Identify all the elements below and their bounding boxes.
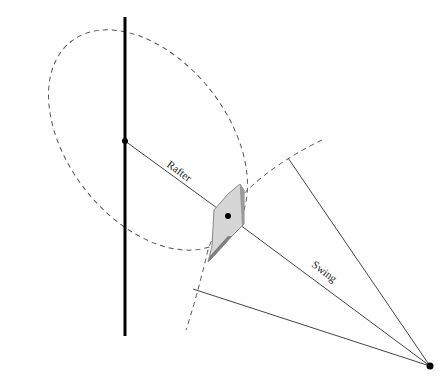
swing-line: [228, 216, 430, 366]
rafter-rotation-ellipse: [8, 0, 288, 288]
plate-pivot-dot: [225, 213, 231, 219]
pole-pivot-dot: [122, 138, 128, 144]
swing-end-dot: [427, 363, 434, 370]
swing-boundary-bottom: [193, 289, 430, 366]
rafter-label: Rafter: [165, 158, 195, 184]
rafter-swing-diagram: Rafter Swing: [0, 0, 445, 382]
plate-shape: [208, 184, 244, 262]
rafter-line: [125, 141, 228, 216]
swing-label: Swing: [310, 258, 340, 285]
diagram-canvas: Rafter Swing: [0, 0, 445, 382]
swing-boundary-top: [288, 158, 430, 366]
